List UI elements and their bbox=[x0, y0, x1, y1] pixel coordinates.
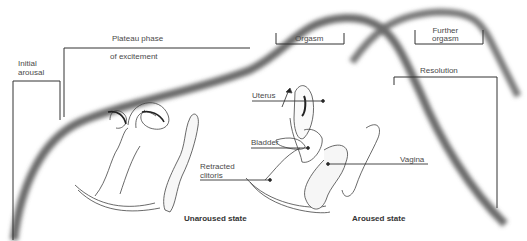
uterus-label: Uterus bbox=[252, 91, 276, 100]
orgasm-label: Orgasm bbox=[295, 34, 323, 43]
aroused-state-caption: Aroused state bbox=[352, 214, 405, 223]
main-arousal-curve bbox=[14, 18, 505, 240]
phase-brackets bbox=[13, 30, 497, 240]
plateau-label-line1: Plateau phase bbox=[112, 34, 163, 43]
aroused-anatomy-illustration bbox=[246, 86, 380, 213]
resolution-label: Resolution bbox=[420, 66, 458, 75]
bladder-label: Bladder bbox=[251, 138, 279, 147]
retracted-clitoris-label: Retracted clitoris bbox=[200, 162, 235, 180]
vagina-label: Vagina bbox=[400, 155, 424, 164]
initial-arousal-label: Initial arousal bbox=[18, 59, 44, 77]
unaroused-state-caption: Unaroused state bbox=[184, 214, 247, 223]
further-orgasm-label: Further orgasm bbox=[432, 27, 459, 43]
plateau-label-line2: of excitement bbox=[110, 52, 158, 61]
